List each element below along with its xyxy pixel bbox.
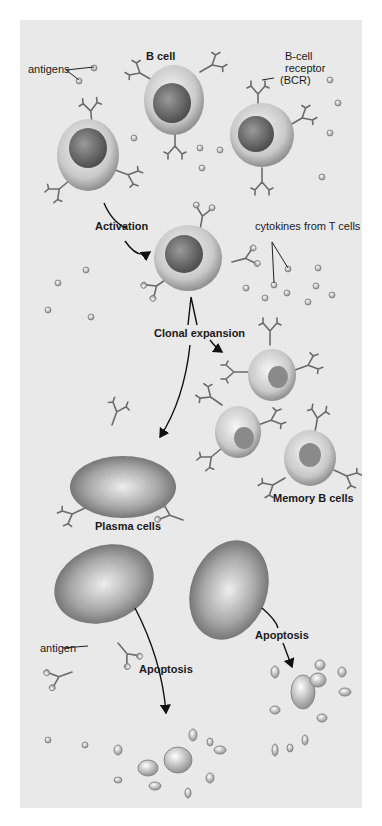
- apoptosis-arrow-right-upper: [262, 608, 278, 628]
- apoptotic-debris-left: [114, 729, 226, 798]
- diagram-artwork: [0, 0, 382, 826]
- cytokine-pointer: [272, 242, 288, 283]
- b-cell-center: [123, 49, 229, 159]
- label-antigen: antigen: [40, 642, 76, 654]
- label-b-cell: B cell: [146, 50, 175, 62]
- arrow-to-memory: [210, 340, 222, 352]
- apoptotic-debris-right: [270, 660, 351, 756]
- activation-arrow: [125, 241, 150, 254]
- label-bcr-line1: B-cell: [285, 50, 313, 62]
- label-apoptosis-left: Apoptosis: [139, 663, 193, 675]
- label-plasma-cells: Plasma cells: [95, 520, 161, 532]
- label-clonal-expansion: Clonal expansion: [154, 327, 245, 339]
- cytokine-dots: [243, 265, 335, 305]
- plasma-cells: [43, 456, 282, 651]
- clonal-expansion-pointer: [188, 297, 197, 325]
- label-activation: Activation: [95, 220, 148, 232]
- bcr-pointer: [262, 78, 274, 80]
- memory-b-cells: [194, 318, 364, 501]
- arrow-to-plasma: [160, 345, 190, 437]
- label-bcr-line3: (BCR): [280, 74, 311, 86]
- label-memory-b-cells: Memory B cells: [273, 492, 354, 504]
- label-cytokines: cytokines from T cells: [255, 220, 360, 232]
- apoptosis-arrow-left: [135, 608, 166, 713]
- label-bcr-line2: receptor: [285, 62, 325, 74]
- antibody-bound: [43, 662, 76, 692]
- apoptosis-arrow-right: [283, 643, 292, 667]
- free-antibody: [102, 396, 132, 429]
- b-cell-left: [42, 97, 144, 206]
- label-apoptosis-right: Apoptosis: [255, 629, 309, 641]
- b-cell-right: [230, 81, 319, 195]
- label-antigens: antigens: [28, 63, 70, 75]
